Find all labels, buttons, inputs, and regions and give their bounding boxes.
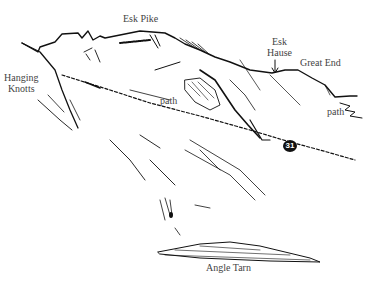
- angle-tarn-shape: [158, 242, 320, 262]
- label-hanging-knotts-line1: Hanging: [4, 72, 38, 83]
- label-hanging-knotts: Hanging Knotts: [4, 72, 38, 94]
- label-esk-hause-line2: Hause: [267, 47, 292, 58]
- path-route: [62, 75, 355, 160]
- label-great-end: Great End: [300, 57, 341, 68]
- arrow-icon: [272, 60, 278, 73]
- label-angle-tarn: Angle Tarn: [206, 262, 251, 273]
- fell-sketch: [0, 0, 383, 287]
- label-esk-pike: Esk Pike: [123, 13, 158, 24]
- label-esk-hause: Esk Hause: [267, 36, 292, 58]
- label-path-right: path: [327, 106, 344, 117]
- label-esk-hause-line1: Esk: [267, 36, 292, 47]
- label-hanging-knotts-line2: Knotts: [4, 83, 38, 94]
- route-marker-badge: 31: [283, 140, 297, 152]
- label-path-center: path: [160, 95, 177, 106]
